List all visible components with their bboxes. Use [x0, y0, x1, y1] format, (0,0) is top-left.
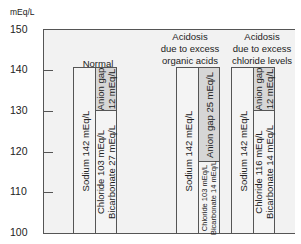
bar-anion-gap-organic-acids: Anion gap 25 mEq/L [198, 67, 220, 162]
bar-chloride-bicarbonate-normal: Chloride 103 mEq/L Bicarbonate 27 mEq/L [95, 110, 117, 234]
bar-label-anion-gap-chloride-levels: Anion gap 12 mEq/L [253, 68, 275, 111]
bar-anion-gap-chloride-levels: Anion gap 12 mEq/L [253, 67, 275, 111]
bar-chloride-bicarbonate-organic-acids: Chloride 103 mEq/L Bicarbonate 14 mEq/L [198, 161, 220, 234]
bar-label-sodium-organic-acids: Sodium 142 mEq/L [182, 110, 193, 191]
y-tick-140 [43, 70, 53, 71]
y-tick-label-150: 150 [10, 23, 34, 35]
bar-chloride-bicarbonate-chloride-levels: Chloride 116 mEq/L Bicarbonate 14 mEq/L [253, 110, 275, 234]
bar-label-chloride-bicarbonate-organic-acids: Chloride 103 mEq/L Bicarbonate 14 mEq/L [200, 160, 218, 234]
y-tick-label-110: 110 [10, 185, 34, 197]
bar-label-sodium-normal: Sodium 142 mEq/L [79, 110, 90, 191]
y-tick-110 [43, 192, 53, 193]
y-tick-label-100: 100 [10, 226, 34, 238]
bar-label-chloride-bicarbonate-chloride-levels: Chloride 116 mEq/L Bicarbonate 14 mEq/L [253, 125, 275, 219]
y-tick-label-140: 140 [10, 63, 34, 75]
y-axis-unit: mEq/L [10, 7, 35, 17]
bar-label-anion-gap-normal: Anion gap 12 mEq/L [95, 68, 117, 111]
y-tick-130 [43, 111, 53, 112]
bar-sodium-normal: Sodium 142 mEq/L [73, 67, 96, 234]
group-title-organic-acids: Acidosis due to excess organic acids [150, 31, 230, 67]
y-tick-label-130: 130 [10, 104, 34, 116]
bar-label-chloride-bicarbonate-normal: Chloride 103 mEq/L Bicarbonate 27 mEq/L [95, 125, 117, 219]
bar-anion-gap-normal: Anion gap 12 mEq/L [95, 67, 117, 111]
y-tick-label-120: 120 [10, 145, 34, 157]
y-tick-120 [43, 152, 53, 153]
bar-sodium-organic-acids: Sodium 142 mEq/L [176, 67, 199, 234]
group-title-chloride-levels: Acidosis due to excess chloride levels [222, 31, 301, 67]
bar-sodium-chloride-levels: Sodium 142 mEq/L [231, 67, 254, 234]
bar-label-anion-gap-organic-acids: Anion gap 25 mEq/L [204, 71, 215, 157]
bar-label-sodium-chloride-levels: Sodium 142 mEq/L [237, 110, 248, 191]
